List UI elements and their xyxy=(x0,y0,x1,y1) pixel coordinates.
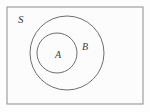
universal-set-label: S xyxy=(18,13,24,25)
venn-diagram-figure: S B A xyxy=(0,0,150,112)
venn-diagram-canvas: S B A xyxy=(0,0,150,112)
set-label-b: B xyxy=(82,41,88,52)
set-label-a: A xyxy=(54,49,62,60)
